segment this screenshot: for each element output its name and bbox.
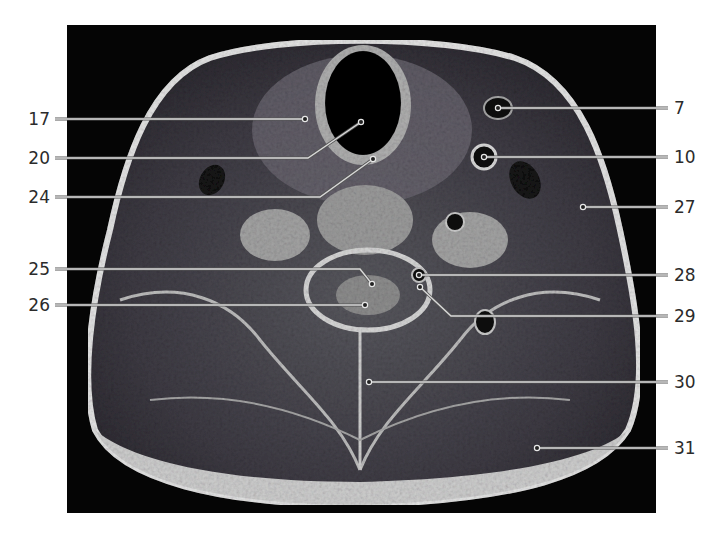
leader-endpoint-31	[534, 445, 539, 450]
structure-label-7: 7	[674, 98, 714, 118]
leader-endpoint-10	[481, 154, 486, 159]
mri-figure: 17202425267102728293031	[0, 0, 719, 545]
leader-endpoint-17	[302, 116, 307, 121]
axial-neck-mri-image	[0, 0, 719, 545]
structure-label-10: 10	[674, 147, 714, 167]
structure-label-24: 24	[10, 187, 50, 207]
structure-label-20: 20	[10, 148, 50, 168]
structure-label-28: 28	[674, 265, 714, 285]
structure-label-30: 30	[674, 372, 714, 392]
leader-endpoint-20	[358, 119, 363, 124]
leader-endpoint-25	[369, 281, 374, 286]
structure-label-25: 25	[10, 259, 50, 279]
leader-endpoint-27	[580, 204, 585, 209]
leader-endpoint-28	[416, 272, 421, 277]
leader-endpoint-7	[495, 105, 500, 110]
leader-endpoint-30	[366, 379, 371, 384]
structure-label-31: 31	[674, 438, 714, 458]
leader-endpoint-29	[417, 284, 422, 289]
structure-label-27: 27	[674, 197, 714, 217]
structure-label-29: 29	[674, 306, 714, 326]
leader-endpoint-26	[362, 302, 367, 307]
structure-label-26: 26	[10, 295, 50, 315]
leader-endpoint-24	[370, 156, 375, 161]
structure-label-17: 17	[10, 109, 50, 129]
